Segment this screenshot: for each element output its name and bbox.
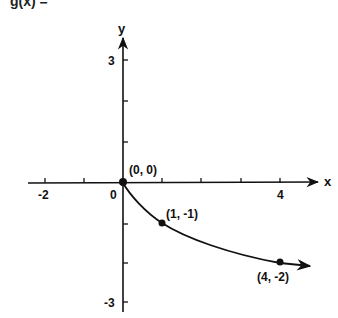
cropped-title-fragment: g(x) = [10, 0, 48, 9]
origin-label: 0 [110, 188, 117, 202]
x-tick-label-neg2: -2 [38, 188, 49, 202]
point-4-neg2 [277, 259, 284, 266]
point-label-4-neg2: (4, -2) [257, 270, 289, 284]
point-1-neg1 [159, 220, 166, 227]
y-tick-label-neg3: -3 [104, 296, 115, 310]
point-origin [119, 178, 127, 186]
point-label-origin: (0, 0) [129, 163, 157, 177]
y-axis-label: y [118, 21, 126, 36]
x-axis [28, 182, 318, 183]
x-axis-label: x [324, 174, 332, 189]
x-tick-label-4: 4 [277, 188, 284, 202]
function-graph: g(x) = x y -2 0 4 3 -3 (0, 0) (1, -1) (4… [0, 0, 338, 318]
point-label-1-neg1: (1, -1) [166, 207, 198, 221]
y-tick-label-3: 3 [108, 54, 115, 68]
